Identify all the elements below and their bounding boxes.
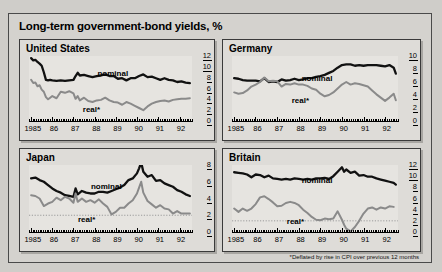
y-tick-label: 2 bbox=[413, 104, 418, 113]
y-tick: 4 bbox=[196, 194, 212, 204]
y-tick: 6 bbox=[402, 194, 418, 204]
y-axis-germany: 0246810 bbox=[398, 56, 418, 121]
y-tick: 6 bbox=[196, 84, 212, 94]
series-line-real bbox=[234, 196, 394, 231]
series-label-real: real* bbox=[287, 217, 304, 226]
x-tick-label: 92 bbox=[383, 235, 391, 244]
y-tick: 2 bbox=[402, 103, 418, 113]
y-tick: 6 bbox=[402, 77, 418, 87]
y-tick-label: 12 bbox=[203, 52, 212, 61]
x-tick-label: 90 bbox=[340, 235, 348, 244]
y-tick-label: 8 bbox=[413, 183, 418, 192]
x-tick-label: 91 bbox=[156, 124, 164, 133]
plot-area-japan: nominalreal* bbox=[29, 165, 192, 232]
x-tick-label: 87 bbox=[275, 235, 283, 244]
y-tick: 2 bbox=[402, 216, 418, 226]
x-tick-label: 90 bbox=[134, 235, 142, 244]
x-tick-label: 91 bbox=[361, 235, 369, 244]
plot-area-germany: nominalreal* bbox=[232, 56, 398, 121]
y-tick-label: 6 bbox=[413, 78, 418, 87]
panel-title-britain: Britain bbox=[229, 152, 261, 163]
x-tick-label: 92 bbox=[177, 124, 185, 133]
y-tick-label: 12 bbox=[409, 161, 418, 170]
series-label-nominal: nominal bbox=[302, 74, 333, 83]
y-tick: 8 bbox=[196, 160, 212, 170]
y-tick-label: 4 bbox=[207, 95, 212, 104]
x-axis-britain: 198586878889909192 bbox=[232, 232, 398, 247]
y-tick: 8 bbox=[402, 64, 418, 74]
panel-japan: Japan nominalreal* 02468 198586878889909… bbox=[19, 148, 215, 252]
x-tick-label: 1985 bbox=[228, 235, 245, 244]
y-tick-label: 4 bbox=[413, 91, 418, 100]
x-tick-label: 1985 bbox=[228, 124, 245, 133]
x-tick-label: 1985 bbox=[24, 124, 41, 133]
x-tick-label: 90 bbox=[134, 124, 142, 133]
x-tick-label: 1985 bbox=[24, 235, 41, 244]
y-tick: 0 bbox=[196, 227, 212, 237]
x-tick-label: 86 bbox=[50, 235, 58, 244]
x-tick-label: 92 bbox=[177, 235, 185, 244]
y-tick-label: 0 bbox=[207, 117, 212, 126]
figure-container: Long-term government-bond yields, % Unit… bbox=[8, 13, 432, 263]
x-tick-label: 87 bbox=[275, 124, 283, 133]
panel-title-germany: Germany bbox=[229, 43, 272, 54]
y-tick-label: 0 bbox=[413, 228, 418, 237]
y-tick: 0 bbox=[402, 227, 418, 237]
y-axis-united-states: 024681012 bbox=[192, 56, 212, 121]
y-tick-label: 6 bbox=[413, 195, 418, 204]
x-tick-label: 87 bbox=[71, 124, 79, 133]
x-tick-label: 89 bbox=[113, 235, 121, 244]
x-tick-mark bbox=[398, 119, 399, 123]
x-tick-label: 88 bbox=[296, 124, 304, 133]
x-tick-label: 89 bbox=[113, 124, 121, 133]
y-tick-label: 4 bbox=[413, 206, 418, 215]
x-tick-label: 91 bbox=[361, 124, 369, 133]
y-tick: 4 bbox=[196, 94, 212, 104]
chart-svg-2 bbox=[29, 165, 192, 232]
series-label-real: real* bbox=[292, 96, 309, 105]
x-axis-germany: 198586878889909192 bbox=[232, 121, 398, 136]
series-label-nominal: nominal bbox=[302, 176, 333, 185]
x-axis-united-states: 198586878889909192 bbox=[29, 121, 192, 136]
y-tick-label: 2 bbox=[207, 106, 212, 115]
y-tick-label: 10 bbox=[409, 52, 418, 61]
panel-title-united-states: United States bbox=[26, 43, 90, 54]
y-tick-label: 0 bbox=[413, 117, 418, 126]
x-tick-label: 88 bbox=[92, 124, 100, 133]
x-tick-label: 88 bbox=[92, 235, 100, 244]
x-tick-mark bbox=[192, 119, 193, 123]
x-tick-label: 91 bbox=[156, 235, 164, 244]
y-tick-label: 8 bbox=[413, 65, 418, 74]
figure-title: Long-term government-bond yields, % bbox=[19, 20, 222, 32]
y-tick: 2 bbox=[196, 210, 212, 220]
panel-united-states: United States nominalreal* 024681012 198… bbox=[19, 39, 215, 141]
x-tick-label: 89 bbox=[318, 235, 326, 244]
y-tick: 10 bbox=[402, 171, 418, 181]
y-tick: 6 bbox=[196, 177, 212, 187]
y-tick: 12 bbox=[196, 51, 212, 61]
y-tick-label: 2 bbox=[207, 211, 212, 220]
y-tick-label: 8 bbox=[207, 74, 212, 83]
figure-footnote: *Deflated by rise in CPI over previous 1… bbox=[290, 254, 419, 260]
y-tick: 4 bbox=[402, 90, 418, 100]
y-tick: 10 bbox=[402, 51, 418, 61]
x-axis-japan: 198586878889909192 bbox=[29, 232, 192, 247]
x-tick-mark bbox=[398, 230, 399, 234]
y-tick-label: 10 bbox=[409, 172, 418, 181]
y-tick: 2 bbox=[196, 105, 212, 115]
x-tick-label: 86 bbox=[253, 235, 261, 244]
y-tick-label: 2 bbox=[413, 217, 418, 226]
y-axis-japan: 02468 bbox=[192, 165, 212, 232]
series-line-nominal bbox=[31, 165, 190, 197]
x-tick-label: 92 bbox=[383, 124, 391, 133]
x-tick-label: 89 bbox=[318, 124, 326, 133]
panel-germany: Germany nominalreal* 0246810 19858687888… bbox=[222, 39, 421, 141]
y-tick: 8 bbox=[402, 182, 418, 192]
y-tick: 4 bbox=[402, 205, 418, 215]
x-tick-mark bbox=[192, 230, 193, 234]
panel-title-japan: Japan bbox=[26, 152, 55, 163]
series-label-real: real* bbox=[83, 105, 100, 114]
series-line-real bbox=[31, 80, 190, 110]
plot-area-britain: nominalreal* bbox=[232, 165, 398, 232]
y-tick: 12 bbox=[402, 160, 418, 170]
